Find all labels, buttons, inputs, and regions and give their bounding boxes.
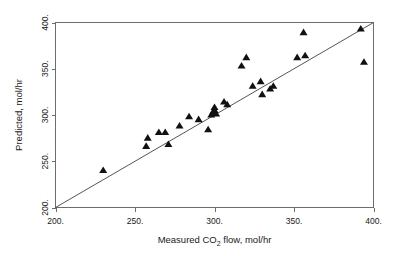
data-point-marker: [301, 52, 309, 59]
data-point-marker: [269, 82, 277, 89]
y-tick-label: 350.: [40, 60, 50, 77]
data-point-marker: [257, 78, 265, 85]
plot-area: 200.250.300.350.400. 200.250.300.350.400…: [0, 0, 396, 256]
data-point-marker: [258, 91, 266, 98]
data-point-marker: [144, 134, 152, 141]
x-tick-label: 400.: [365, 216, 382, 226]
data-point-marker: [300, 29, 308, 36]
data-point-marker: [195, 116, 203, 123]
data-point-marker: [238, 62, 246, 69]
y-tick-label: 300.: [40, 107, 50, 124]
data-point-marker: [242, 54, 250, 61]
data-point-marker: [142, 142, 150, 149]
data-point-marker: [155, 128, 163, 135]
x-axis-title: Measured CO2 flow, mol/hr: [158, 234, 272, 247]
x-tick-label: 200.: [47, 216, 64, 226]
data-point-marker: [161, 128, 169, 135]
data-point-marker: [360, 58, 368, 65]
data-point-marker: [185, 113, 193, 120]
y-tick-label: 200.: [40, 199, 50, 216]
scatter-chart: 200.250.300.350.400. 200.250.300.350.400…: [0, 0, 396, 256]
y-tick-label: 400.: [40, 14, 50, 31]
x-axis-title-text: Measured CO2 flow, mol/hr: [158, 234, 272, 247]
data-point-marker: [99, 166, 107, 173]
x-tick-label: 300.: [206, 216, 223, 226]
data-point-marker: [293, 54, 301, 61]
x-tick-label: 250.: [127, 216, 144, 226]
y-tick-label: 250.: [40, 153, 50, 170]
y-axis-tick-labels: 200.250.300.350.400.: [40, 14, 50, 216]
y-axis-title-text: Predicted, mol/hr: [13, 79, 24, 151]
y-axis-title: Predicted, mol/hr: [13, 79, 24, 151]
x-tick-label: 350.: [286, 216, 303, 226]
data-points: [99, 25, 368, 173]
data-point-marker: [204, 126, 212, 133]
data-point-marker: [176, 122, 184, 129]
x-axis-tick-labels: 200.250.300.350.400.: [47, 216, 382, 226]
data-point-marker: [249, 82, 257, 89]
